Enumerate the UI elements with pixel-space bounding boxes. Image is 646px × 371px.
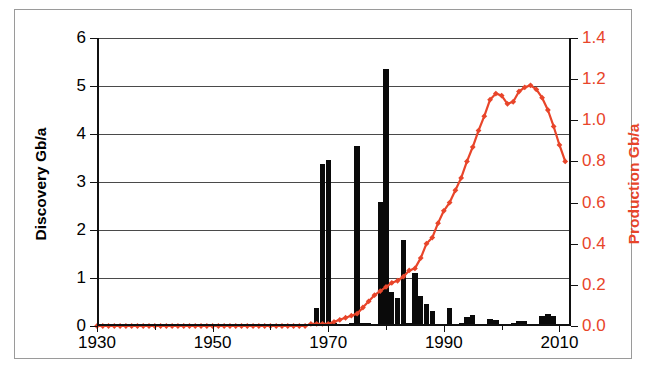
- bottom-axis-line: [97, 324, 571, 326]
- production-line-series: [97, 38, 571, 326]
- right-tick-label: 0.4: [582, 234, 606, 254]
- x-tick-minor: [270, 326, 271, 330]
- left-tick: [90, 326, 97, 327]
- x-tick-minor: [386, 326, 387, 330]
- right-tick: [571, 161, 578, 162]
- production-marker: [337, 317, 343, 323]
- x-tick-label: 1930: [78, 333, 116, 353]
- figure-border: Discovery Gb/a Production Gb/a 0123456 0…: [14, 9, 632, 359]
- right-tick-label: 0.2: [582, 275, 606, 295]
- x-tick: [97, 326, 98, 332]
- x-tick: [444, 326, 445, 332]
- production-marker: [551, 124, 557, 130]
- left-tick-label: 4: [77, 124, 86, 144]
- left-axis-title: Discovery Gb/a: [32, 128, 50, 241]
- left-tick: [90, 182, 97, 183]
- production-marker: [464, 159, 470, 165]
- right-tick-label: 0.6: [582, 193, 606, 213]
- right-tick-label: 0.8: [582, 151, 606, 171]
- right-tick-label: 1.2: [582, 69, 606, 89]
- left-tick-label: 1: [77, 268, 86, 288]
- plot-area: 0123456 0.00.20.40.60.81.01.21.4 1930195…: [97, 38, 571, 326]
- right-tick: [571, 285, 578, 286]
- x-tick-minor: [502, 326, 503, 330]
- right-tick: [571, 120, 578, 121]
- right-axis-line: [569, 38, 571, 326]
- left-tick: [90, 86, 97, 87]
- production-markers: [94, 82, 568, 328]
- left-tick: [90, 38, 97, 39]
- production-marker: [557, 142, 563, 148]
- left-tick: [90, 278, 97, 279]
- right-tick-label: 1.4: [582, 28, 606, 48]
- x-tick-label: 1950: [194, 333, 232, 353]
- production-line-path: [97, 85, 565, 326]
- x-tick-label: 1970: [309, 333, 347, 353]
- x-tick-label: 1990: [425, 333, 463, 353]
- left-tick-label: 2: [77, 220, 86, 240]
- x-tick: [559, 326, 560, 332]
- production-marker: [476, 128, 482, 134]
- right-tick-label: 0.0: [582, 316, 606, 336]
- right-tick: [571, 79, 578, 80]
- right-tick: [571, 244, 578, 245]
- right-tick: [571, 38, 578, 39]
- left-tick-label: 6: [77, 28, 86, 48]
- chart-figure: Discovery Gb/a Production Gb/a 0123456 0…: [0, 0, 646, 371]
- left-axis-line: [97, 38, 99, 326]
- x-tick-minor: [155, 326, 156, 330]
- production-marker: [562, 159, 568, 165]
- x-tick: [213, 326, 214, 332]
- left-tick-label: 5: [77, 76, 86, 96]
- right-tick-label: 1.0: [582, 110, 606, 130]
- right-tick: [571, 203, 578, 204]
- production-marker: [348, 313, 354, 319]
- left-tick-label: 3: [77, 172, 86, 192]
- production-marker: [343, 315, 349, 321]
- left-tick: [90, 230, 97, 231]
- production-marker: [470, 144, 476, 150]
- left-tick: [90, 134, 97, 135]
- production-marker: [481, 113, 487, 119]
- x-tick: [328, 326, 329, 332]
- right-tick: [571, 326, 578, 327]
- x-tick-label: 2010: [541, 333, 579, 353]
- right-axis-title: Production Gb/a: [625, 124, 643, 245]
